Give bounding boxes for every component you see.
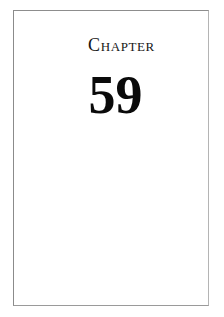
page-border-frame: Chapter 59 xyxy=(13,10,209,306)
scanned-page: Chapter 59 xyxy=(0,0,224,317)
chapter-label: Chapter xyxy=(14,35,208,55)
chapter-number: 59 xyxy=(14,67,208,123)
page-body-text xyxy=(34,131,192,295)
